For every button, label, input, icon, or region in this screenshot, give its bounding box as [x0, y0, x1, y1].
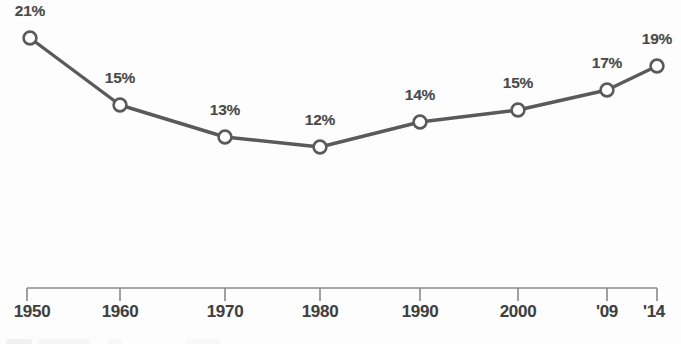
x-axis-tick-label: 1960 — [102, 302, 139, 322]
data-point-value-label: 15% — [105, 69, 135, 87]
data-point-marker — [314, 141, 327, 154]
data-point-value-label: 13% — [210, 101, 240, 119]
data-point-value-label: 14% — [405, 86, 435, 104]
data-point-value-label: 12% — [305, 111, 335, 129]
data-point-marker — [24, 32, 37, 45]
x-axis-tick-label: 1970 — [207, 302, 244, 322]
x-axis-tick-label: '09 — [596, 302, 618, 322]
data-point-value-label: 21% — [15, 2, 45, 20]
x-axis-tick-label: 2000 — [500, 302, 537, 322]
x-axis-tick-label: 1950 — [14, 302, 51, 322]
series-line-group — [30, 38, 657, 147]
series-markers — [24, 32, 664, 154]
data-point-marker — [512, 104, 525, 117]
data-point-value-label: 19% — [642, 30, 672, 48]
chart-plot-area — [0, 0, 681, 344]
data-point-marker — [414, 116, 427, 129]
data-point-marker — [601, 84, 614, 97]
x-axis-tick-label: 1990 — [402, 302, 439, 322]
x-axis — [27, 288, 657, 301]
data-point-marker — [219, 131, 232, 144]
line-chart: 21%15%13%12%14%15%17%19% 195019601970198… — [0, 0, 681, 344]
data-point-value-label: 15% — [503, 74, 533, 92]
x-axis-tick-label: '14 — [643, 302, 665, 322]
data-point-marker — [651, 60, 664, 73]
x-axis-tick-label: 1980 — [302, 302, 339, 322]
data-point-marker — [114, 99, 127, 112]
series-line — [30, 38, 657, 147]
data-point-value-label: 17% — [592, 54, 622, 72]
